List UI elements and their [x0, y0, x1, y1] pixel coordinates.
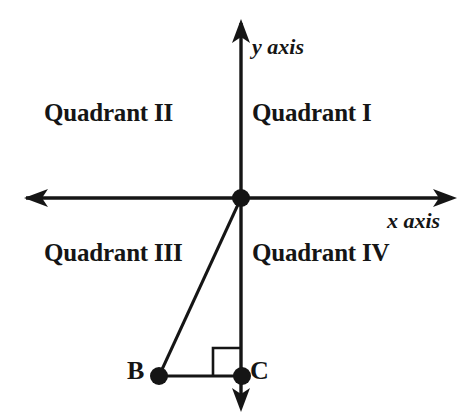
y-axis-label: y axis: [252, 36, 304, 58]
coordinate-plane-figure: Quadrant II Quadrant I Quadrant III Quad…: [0, 0, 472, 416]
quadrant-3-label: Quadrant III: [44, 240, 183, 265]
quadrant-4-label: Quadrant IV: [252, 240, 389, 265]
point-b-label: B: [127, 358, 144, 384]
point-c-dot: [233, 367, 251, 385]
point-c-label: C: [250, 358, 269, 384]
x-axis-label: x axis: [387, 210, 440, 232]
origin-point-dot: [232, 189, 250, 207]
point-b-dot: [150, 367, 168, 385]
quadrant-1-label: Quadrant I: [252, 100, 372, 125]
quadrant-2-label: Quadrant II: [44, 100, 173, 125]
